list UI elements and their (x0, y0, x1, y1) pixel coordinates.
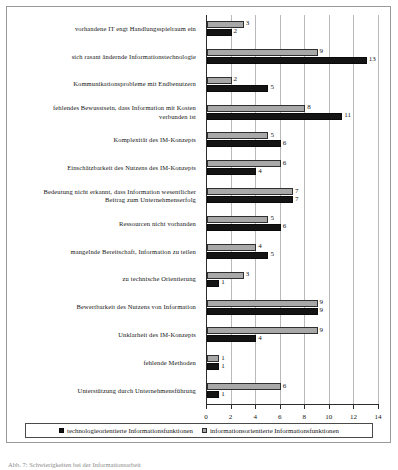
x-tick-label: 8 (303, 413, 307, 421)
category-label: fehlendes Bewusstsein, dass Information … (6, 104, 196, 121)
bar-value-label: 1 (221, 363, 225, 370)
gridline (353, 15, 354, 405)
x-tick (280, 405, 281, 409)
bar-tech (207, 391, 219, 398)
category-label-line: Beitrag zum Unternehmenserfolg (105, 196, 196, 203)
gridline (304, 15, 305, 405)
gridline (255, 15, 256, 405)
figure-frame: vorhandene IT engt Handlungsspielraum ei… (6, 6, 391, 443)
category-label-line: Einschätzbarkeit des Nutzens des IM-Konz… (67, 164, 196, 171)
category-label: Unklarheit des IM-Konzepts (6, 331, 196, 339)
bar-value-label: 5 (270, 251, 274, 258)
x-tick-label: 10 (325, 413, 332, 421)
category-label: Unterstützung durch Unternehmensführung (6, 387, 196, 395)
bar-tech (207, 196, 293, 203)
category-label: mangelnde Bereitschaft, Information zu t… (6, 248, 196, 256)
gridline (329, 15, 330, 405)
legend-entry: technologieorientierte Informationsfunkt… (59, 427, 193, 434)
bar-tech (207, 308, 318, 315)
gridline (378, 15, 379, 405)
x-tick-label: 0 (204, 413, 208, 421)
bar-value-label: 4 (258, 335, 262, 342)
category-label-line: sich rasant ändernde Informationstechnol… (72, 53, 196, 60)
bar-value-label: 9 (320, 48, 324, 55)
category-label-line: Komplexität des IM-Konzepts (113, 136, 196, 143)
category-label-line: verbunden ist (159, 113, 196, 120)
bar-info (207, 188, 293, 195)
bar-info (207, 132, 268, 139)
bar-value-label: 6 (283, 160, 287, 167)
category-label: Ressourcen nicht vorhanden (6, 220, 196, 228)
plot-inner: 329132581156647756453199941161 024681012… (206, 15, 379, 405)
category-label-line: Bedeutung nicht erkannt, dass Informatio… (43, 188, 196, 195)
category-label-line: vorhandene IT engt Handlungsspielraum ei… (75, 25, 196, 32)
y-axis-spine (206, 15, 207, 405)
bar-value-label: 9 (320, 327, 324, 334)
bar-value-label: 3 (246, 20, 250, 27)
bar-tech (207, 252, 268, 259)
x-tick-label: 14 (375, 413, 382, 421)
bar-value-label: 6 (283, 223, 287, 230)
bar-value-label: 4 (258, 243, 262, 250)
bar-value-label: 6 (283, 140, 287, 147)
legend-swatch-tech (59, 428, 64, 433)
bar-info (207, 327, 318, 334)
bar-tech (207, 224, 281, 231)
category-label: Einschätzbarkeit des Nutzens des IM-Konz… (6, 164, 196, 172)
bar-tech (207, 363, 219, 370)
category-label: vorhandene IT engt Handlungsspielraum ei… (6, 25, 196, 33)
x-tick-label: 4 (253, 413, 257, 421)
bar-info (207, 105, 305, 112)
bar-tech (207, 140, 281, 147)
gridline (280, 15, 281, 405)
x-tick (353, 405, 354, 409)
legend-entry: informationsorientierte Informationsfunk… (202, 427, 339, 434)
x-tick-label: 6 (278, 413, 282, 421)
bar-info (207, 300, 318, 307)
bar-value-label: 1 (221, 355, 225, 362)
plot-area: 329132581156647756453199941161 024681012… (206, 15, 379, 405)
bar-value-label: 7 (295, 196, 299, 203)
bar-value-label: 6 (283, 383, 287, 390)
bar-value-label: 3 (246, 271, 250, 278)
bar-value-label: 5 (270, 132, 274, 139)
legend-label: technologieorientierte Informationsfunkt… (67, 427, 193, 434)
bar-info (207, 49, 318, 56)
bar-tech (207, 29, 232, 36)
bar-tech (207, 85, 268, 92)
x-tick (329, 405, 330, 409)
category-label-line: Bewertbarkeit des Nutzens von Informatio… (77, 303, 196, 310)
category-axis-labels: vorhandene IT engt Handlungsspielraum ei… (7, 15, 200, 405)
bar-value-label: 9 (320, 299, 324, 306)
bar-tech (207, 280, 219, 287)
bar-info (207, 77, 232, 84)
chart-legend: technologieorientierte Informationsfunkt… (25, 423, 373, 438)
category-label: Bewertbarkeit des Nutzens von Informatio… (6, 303, 196, 311)
bar-value-label: 13 (369, 56, 376, 63)
legend-label: informationsorientierte Informationsfunk… (210, 427, 339, 434)
category-label-line: Kommunikationsprobleme mit Endbenutzern (73, 80, 196, 87)
bar-tech (207, 57, 367, 64)
x-tick (206, 405, 207, 409)
bar-value-label: 4 (258, 168, 262, 175)
gridline (231, 15, 232, 405)
bar-value-label: 2 (234, 76, 238, 83)
x-tick-label: 2 (229, 413, 233, 421)
bar-value-label: 1 (221, 279, 225, 286)
category-label: Kommunikationsprobleme mit Endbenutzern (6, 80, 196, 88)
category-label-line: fehlende Methoden (143, 359, 196, 366)
bar-info (207, 355, 219, 362)
x-tick (378, 405, 379, 409)
category-label-line: Ressourcen nicht vorhanden (119, 220, 196, 227)
bar-value-label: 1 (221, 391, 225, 398)
bar-tech (207, 168, 256, 175)
bar-value-label: 7 (295, 188, 299, 195)
bar-info (207, 244, 256, 251)
category-label: Bedeutung nicht erkannt, dass Informatio… (6, 188, 196, 205)
bar-info (207, 216, 268, 223)
category-label-line: mangelnde Bereitschaft, Information zu t… (70, 248, 196, 255)
bar-info (207, 383, 281, 390)
category-label: zu technische Orientierung (6, 275, 196, 283)
legend-swatch-info (202, 428, 207, 433)
category-label-line: fehlendes Bewusstsein, dass Information … (53, 104, 196, 111)
